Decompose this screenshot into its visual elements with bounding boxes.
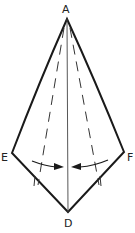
label-e: E xyxy=(1,151,8,164)
label-d: D xyxy=(64,217,72,230)
arrow-right-icon xyxy=(71,160,108,170)
arrow-left-icon xyxy=(32,161,64,170)
dashed-fold-line-left xyxy=(38,28,64,185)
kite-diagram: A E F D xyxy=(0,0,135,233)
label-f: F xyxy=(127,151,133,164)
dashed-fold-line-right xyxy=(70,28,99,185)
label-a: A xyxy=(62,3,70,16)
center-crease-line xyxy=(67,19,68,212)
